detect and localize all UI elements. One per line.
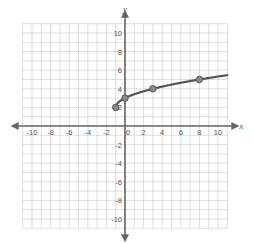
- data-point: [196, 76, 202, 82]
- x-tick-label: 6: [179, 128, 183, 137]
- data-point: [122, 95, 128, 101]
- x-tick-label: -6: [66, 128, 73, 137]
- data-point: [150, 86, 156, 92]
- y-tick-label: -4: [115, 159, 122, 168]
- x-tick-label: 2: [142, 128, 146, 137]
- data-series: [113, 75, 228, 110]
- x-tick-label: -10: [27, 128, 38, 137]
- coordinate-plane: -10-8-6-4-20246810-10-8-6-4-2246810 x y: [0, 0, 254, 243]
- y-axis-label: y: [122, 4, 127, 14]
- y-tick-label: 10: [114, 29, 122, 38]
- x-axis-label: x: [238, 121, 243, 131]
- y-tick-label: 4: [118, 85, 122, 94]
- x-tick-label: 8: [197, 128, 201, 137]
- data-point: [113, 104, 119, 110]
- x-tick-label: -8: [47, 128, 54, 137]
- y-tick-label: -2: [115, 141, 122, 150]
- y-tick-label: 6: [118, 66, 122, 75]
- x-tick-label: 10: [214, 128, 222, 137]
- x-tick-label: -4: [84, 128, 91, 137]
- x-tick-label: 0: [126, 128, 130, 137]
- axes: [15, 14, 236, 239]
- x-tick-label: -2: [103, 128, 110, 137]
- y-tick-label: 8: [118, 48, 122, 57]
- y-tick-label: -8: [115, 196, 122, 205]
- x-tick-label: 4: [160, 128, 164, 137]
- y-tick-label: -10: [111, 215, 122, 224]
- y-tick-label: -6: [115, 178, 122, 187]
